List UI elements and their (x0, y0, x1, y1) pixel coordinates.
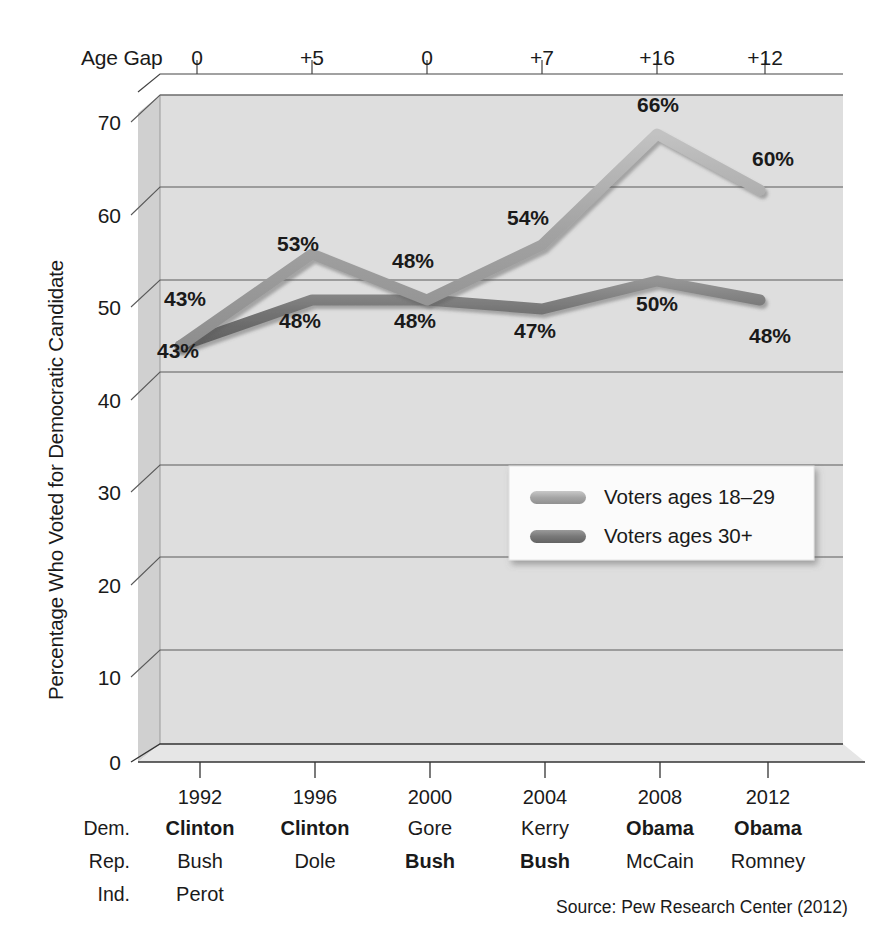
y-tick-20: 20 (75, 575, 121, 596)
age-gap-value-2008: +16 (630, 47, 684, 68)
data-label-old-2012: 48% (735, 325, 805, 346)
data-label-old-2000: 48% (380, 310, 450, 331)
x-tick-1992: 1992 (160, 787, 240, 807)
x-tick-2004: 2004 (505, 787, 585, 807)
age-gap-value-2004: +7 (517, 47, 567, 68)
candidate-dem-2012: Obama (725, 818, 811, 838)
y-tick-10: 10 (75, 667, 121, 688)
data-label-young-1996: 53% (263, 233, 333, 254)
y-tick-30: 30 (75, 482, 121, 503)
source-note: Source: Pew Research Center (2012) (556, 899, 848, 917)
y-axis-title: Percentage Who Voted for Democratic Cand… (44, 260, 68, 700)
data-label-old-1996: 48% (265, 310, 335, 331)
legend-swatch-young (530, 491, 586, 504)
legend-label-old: Voters ages 30+ (604, 526, 753, 547)
age-gap-value-2012: +12 (738, 47, 792, 68)
data-label-old-2008: 50% (622, 293, 692, 314)
candidate-dem-2000: Gore (387, 818, 473, 838)
candidate-rep-1996: Dole (272, 851, 358, 871)
x-tick-2000: 2000 (390, 787, 470, 807)
age-gap-value-1996: +5 (287, 47, 337, 68)
candidate-rep-2008: McCain (617, 851, 703, 871)
data-label-young-2008: 66% (623, 94, 693, 115)
y-tick-50: 50 (75, 297, 121, 318)
candidate-rep-2000: Bush (387, 851, 473, 871)
data-label-old-1992: 43% (143, 340, 213, 361)
data-label-young-1992: 43% (150, 288, 220, 309)
row-label-rep: Rep. (60, 852, 130, 872)
candidate-dem-1996: Clinton (272, 818, 358, 838)
row-label-ind: Ind. (60, 885, 130, 905)
x-tick-1996: 1996 (275, 787, 355, 807)
candidate-rep-1992: Bush (157, 851, 243, 871)
candidate-rep-2012: Romney (725, 851, 811, 871)
plot-3d-box (138, 95, 865, 762)
y-tick-0: 0 (75, 752, 121, 773)
age-gap-value-2000: 0 (402, 47, 452, 68)
data-label-young-2004: 54% (493, 207, 563, 228)
data-label-old-2004: 47% (500, 320, 570, 341)
y-tick-40: 40 (75, 390, 121, 411)
bottom-ticks (200, 762, 768, 778)
candidate-dem-1992: Clinton (157, 818, 243, 838)
candidate-ind-1992: Perot (157, 884, 243, 904)
legend-label-young: Voters ages 18–29 (604, 487, 775, 508)
data-label-young-2012: 60% (738, 148, 808, 169)
legend-swatch-old (530, 530, 586, 543)
row-label-dem: Dem. (60, 819, 130, 839)
age-gap-value-1992: 0 (172, 47, 222, 68)
x-tick-2008: 2008 (620, 787, 700, 807)
x-tick-2012: 2012 (728, 787, 808, 807)
candidate-rep-2004: Bush (502, 851, 588, 871)
candidate-dem-2004: Kerry (502, 818, 588, 838)
y-tick-70: 70 (75, 112, 121, 133)
y-tick-60: 60 (75, 205, 121, 226)
chart-figure: Age Gap 0 +5 0 +7 +16 +12 Percentage Who… (0, 0, 889, 940)
age-gap-label: Age Gap (81, 47, 163, 68)
data-label-young-2000: 48% (378, 250, 448, 271)
candidate-dem-2008: Obama (617, 818, 703, 838)
